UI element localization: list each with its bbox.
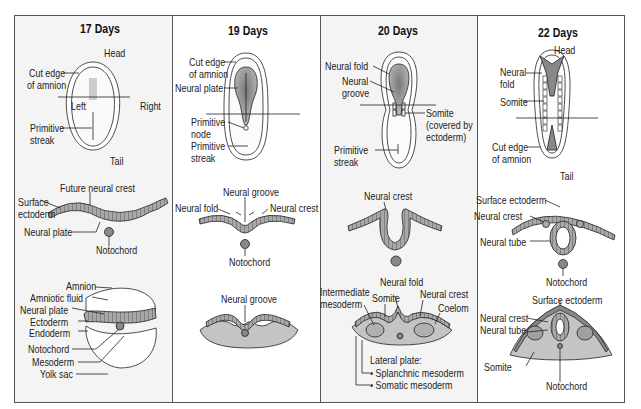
label-yolk-sac: Yolk sac — [40, 368, 73, 380]
panel-title-22: 22 Days — [538, 26, 578, 40]
label-primitive-streak: Primitive — [191, 140, 225, 152]
panel-title-19: 19 Days — [228, 24, 268, 38]
label-neural-fold-b: Neural fold — [380, 276, 423, 288]
label-cut-edge-2: of amnion — [492, 153, 531, 165]
label-notochord: Notochord — [229, 256, 270, 268]
label-mesoderm: Mesoderm — [32, 356, 74, 368]
label-primitive-streak-2: streak — [30, 134, 54, 146]
label-head: Head — [554, 44, 575, 56]
label-lateral-plate: Lateral plate: — [370, 354, 422, 366]
label-cut-edge: Cut edge — [492, 141, 528, 153]
label-somite-b: Somite — [484, 361, 512, 373]
label-notochord: Notochord — [96, 244, 137, 256]
label-neural-groove: Neural — [342, 75, 368, 87]
label-neural-tube: Neural tube — [480, 236, 526, 248]
label-somite-2: (covered by — [426, 119, 473, 131]
label-neural-crest-b: Neural crest — [420, 288, 468, 300]
label-neural-fold: Neural — [500, 66, 526, 78]
label-somatic-mesoderm: • Somatic mesoderm — [370, 379, 452, 391]
label-neural-fold: Neural fold — [175, 202, 218, 214]
label-neural-plate-2: Neural plate — [20, 304, 68, 316]
label-primitive-node-2: node — [191, 128, 211, 140]
dorsal-view-17 — [58, 62, 130, 150]
label-surface-ectoderm-b: Surface ectoderm — [532, 294, 602, 306]
cross-section-19-b — [200, 305, 298, 348]
label-somite: Somite — [426, 107, 454, 119]
label-neural-plate: Neural plate — [24, 226, 72, 238]
label-somite: Somite — [500, 96, 528, 108]
cross-section-20-a — [348, 202, 442, 266]
label-endoderm: Endoderm — [29, 327, 70, 339]
label-cut-edge: Cut edge — [29, 67, 65, 79]
label-amnion: Amnion — [66, 280, 96, 292]
label-somite-b: Somite — [372, 292, 400, 304]
label-surface-ectoderm: Surface — [18, 196, 49, 208]
label-neural-groove: Neural groove — [223, 186, 279, 198]
label-splanchnic-mesoderm: • Splanchnic mesoderm — [370, 367, 464, 379]
label-neural-plate: Neural plate — [175, 82, 223, 94]
label-neural-crest: Neural crest — [364, 190, 412, 202]
panel-title-17: 17 Days — [80, 22, 120, 36]
label-cut-edge-2: of amnion — [189, 68, 228, 80]
label-neural-fold: Neural fold — [325, 60, 368, 72]
label-neural-crest: Neural crest — [474, 210, 522, 222]
label-surface-ectoderm: Surface ectoderm — [476, 194, 546, 206]
label-somite-3: ectoderm) — [426, 131, 466, 143]
label-coelom: Coelom — [438, 302, 469, 314]
label-primitive-streak-2: streak — [191, 152, 215, 164]
label-primitive-streak: Primitive — [30, 122, 64, 134]
label-primitive-node: Primitive — [191, 116, 225, 128]
cross-section-22-a — [512, 200, 615, 276]
label-primitive-streak-2: streak — [334, 156, 358, 168]
label-future-neural-crest: Future neural crest — [60, 182, 135, 194]
label-neural-crest: Neural crest — [270, 202, 318, 214]
label-left: Left — [71, 100, 86, 112]
label-neural-groove-2: groove — [342, 87, 369, 99]
label-notochord-2: Notochord — [28, 343, 69, 355]
label-primitive-streak: Primitive — [334, 144, 368, 156]
dorsal-view-20 — [360, 52, 436, 168]
label-cut-edge: Cut edge — [189, 56, 225, 68]
label-intermediate-mesoderm-2: mesoderm — [320, 298, 362, 310]
cross-section-17-b — [72, 287, 156, 374]
panel-title-20: 20 Days — [378, 24, 418, 38]
label-right: Right — [140, 100, 161, 112]
label-neural-groove-2: Neural groove — [221, 293, 277, 305]
label-tail: Tail — [110, 155, 123, 167]
label-surface-ectoderm-2: ectoderm — [18, 208, 55, 220]
label-tail: Tail — [560, 170, 573, 182]
label-neural-crest-b: Neural crest — [480, 312, 528, 324]
label-amniotic-fluid: Amniotic fluid — [30, 292, 83, 304]
label-notochord: Notochord — [546, 276, 587, 288]
label-neural-tube-b: Neural tube — [480, 324, 526, 336]
label-head: Head — [104, 47, 125, 59]
label-neural-fold-2: fold — [500, 78, 514, 90]
label-notochord-b: Notochord — [546, 380, 587, 392]
label-intermediate-mesoderm: Intermediate — [320, 286, 370, 298]
label-cut-edge-2: of amnion — [27, 79, 66, 91]
